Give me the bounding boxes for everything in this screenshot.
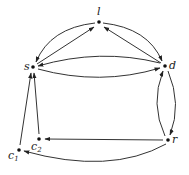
node-r (166, 138, 170, 142)
node-c2 (37, 137, 41, 141)
edges (20, 23, 176, 161)
node-l (97, 20, 101, 24)
label-c1: c1 (8, 149, 19, 163)
label-r: r (172, 133, 178, 146)
edge-c2-to-s (34, 73, 39, 134)
edge-d-to-r (168, 71, 176, 135)
node-c1 (17, 148, 21, 152)
edge-r-to-d (157, 71, 165, 136)
label-c2: c2 (31, 140, 42, 154)
label-s: s (24, 60, 30, 73)
edge-c1-to-s (20, 73, 31, 145)
edge-l-to-d (103, 23, 162, 61)
node-d (163, 64, 167, 68)
edge-r-to-c1 (24, 144, 166, 161)
directed-graph-diagram: l s d r c2 c1 (0, 0, 189, 175)
node-s (31, 65, 35, 69)
edge-r-to-c2 (45, 139, 163, 140)
edge-s-to-d (38, 68, 160, 77)
label-c2-sub: 2 (36, 146, 42, 154)
label-l: l (97, 5, 101, 18)
edge-d-to-s (38, 56, 160, 66)
label-c1-sub: 1 (14, 155, 18, 163)
label-d: d (169, 59, 176, 72)
edge-l-to-s (36, 23, 95, 62)
